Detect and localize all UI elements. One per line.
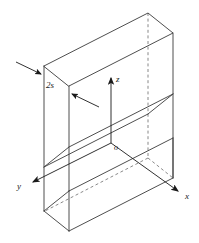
thickness-arrow-upper: [16, 62, 41, 74]
slab-edges-group: [44, 13, 173, 231]
hidden-edge-bottom-back-left: [45, 158, 148, 211]
edge-bottom-front-diag: [69, 178, 173, 231]
mid-edge-left-front: [44, 147, 69, 167]
origin-label: o: [114, 143, 118, 152]
thickness-label: 2s: [46, 80, 55, 90]
z-axis-label: z: [115, 74, 120, 84]
hidden-edge-bottom-back-right: [148, 158, 173, 178]
edge-bottom-left-to-front: [44, 191, 69, 211]
y-axis-label: y: [16, 181, 21, 191]
thickness-arrow-lower: [72, 94, 99, 107]
isometric-plate-diagram: 2s o z x y: [0, 0, 199, 243]
thickness-dimension-arrows: [16, 62, 99, 107]
edge-bottom-left-short: [44, 211, 69, 231]
mid-edge-right-short: [148, 94, 173, 114]
x-axis-line: [111, 143, 178, 191]
y-axis-line: [33, 143, 111, 182]
mid-plane-group: [44, 94, 173, 167]
top-face: [44, 13, 173, 86]
coordinate-axes-group: [33, 78, 178, 191]
mid-edge-front-long: [69, 94, 173, 147]
figure-container: 2s o z x y: [0, 0, 199, 243]
x-axis-label: x: [184, 191, 189, 201]
